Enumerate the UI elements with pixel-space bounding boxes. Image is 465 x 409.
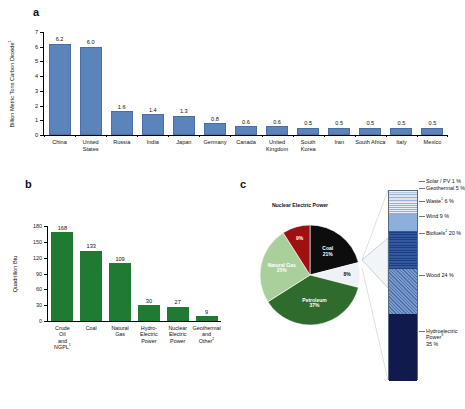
pie-slice-label: Petroleum37% (302, 298, 326, 310)
panel-b-bar-column: 109 (106, 226, 135, 321)
panel-a-y-tick-label: 4 (28, 73, 38, 79)
panel-b-bar (51, 232, 73, 321)
panel-a-bar-column: 0.5 (417, 32, 448, 135)
panel-a-y-tick-label: 7 (28, 29, 38, 35)
panel-a-x-label: United States (75, 139, 106, 152)
panel-a-x-tick (293, 135, 294, 137)
panel-b-bar-value: 133 (87, 243, 96, 249)
panel-a-x-axis (44, 135, 448, 136)
panel-a-emissions-bar-chart: a Billion Metric Tons Carbon Dioxide1 01… (0, 0, 462, 176)
renewable-stack-leader-tick (419, 275, 425, 276)
renewable-stack-leader-tick (419, 181, 425, 182)
renewable-stack-leader-tick (419, 201, 425, 202)
renewable-stack-segment (389, 269, 417, 315)
renewable-stack-segment (389, 214, 417, 231)
renewable-stack-segment (389, 314, 417, 381)
panel-a-y-axis-title: Billion Metric Tons Carbon Dioxide1 (7, 32, 17, 135)
panel-a-bar-column: 0.8 (199, 32, 230, 135)
panel-a-x-label: Italy (386, 139, 417, 152)
panel-a-x-tick (44, 135, 45, 137)
panel-a-x-tick (199, 135, 200, 137)
panel-a-bar-value: 1.6 (118, 104, 126, 110)
panel-a-x-label: Mexico (417, 139, 448, 152)
panel-a-bar-value: 1.4 (149, 107, 157, 113)
renewable-stack-segment (389, 193, 417, 203)
panel-a-bar (266, 126, 288, 135)
panel-b-bar-column: 27 (163, 226, 192, 321)
panel-a-bar-value: 1.3 (180, 108, 188, 114)
panel-b-bar-value: 9 (205, 309, 208, 315)
panel-a-bar (49, 44, 71, 135)
panel-b-bar-value: 27 (175, 299, 181, 305)
panel-a-x-label: South Korea (293, 139, 324, 152)
renewable-stack-label: Waste1 6 % (426, 198, 454, 204)
pie-slice-label: Natural Gas25% (268, 263, 296, 275)
panel-a-x-tick (386, 135, 387, 137)
renewable-stack-label: Wood 24 % (426, 272, 454, 278)
panel-a-bar-column: 0.5 (324, 32, 355, 135)
panel-b-bar-column: 133 (77, 226, 106, 321)
panel-a-bar-column: 6.0 (75, 32, 106, 135)
renewable-stack-leader-tick (419, 188, 425, 189)
panel-a-bar-column: 0.5 (293, 32, 324, 135)
panel-a-y-tick-label: 6 (28, 44, 38, 50)
panel-a-bar-value: 0.5 (398, 120, 406, 126)
panel-a-bar-column: 0.5 (386, 32, 417, 135)
panel-a-bar-value: 0.8 (211, 116, 219, 122)
panel-b-bar (167, 307, 189, 321)
panel-b-bar-column: 168 (48, 226, 77, 321)
panel-a-y-tick-label: 5 (28, 58, 38, 64)
panel-a-bar-column: 0.6 (262, 32, 293, 135)
panel-b-y-tick-label: 150 (22, 239, 42, 245)
panel-a-x-tick (417, 135, 418, 137)
panel-c-energy-sources-pie-chart: c Nuclear Electric Power Coal21%8%Petrol… (236, 176, 462, 409)
panel-a-bar-value: 0.5 (304, 120, 312, 126)
panel-a-x-tick (137, 135, 138, 137)
renewable-stack-segment (389, 202, 417, 213)
panel-b-bar (138, 305, 160, 321)
panel-a-x-label: Germany (199, 139, 230, 152)
panel-a-bar (390, 128, 412, 135)
panel-a-x-label: Iran (324, 139, 355, 152)
panel-a-bar-column: 0.5 (355, 32, 386, 135)
panel-a-x-tick (168, 135, 169, 137)
renewable-stack-label: HydroelectricPower335 % (426, 328, 457, 347)
panel-b-y-tick-label: 0 (22, 318, 42, 324)
panel-a-x-label: South Africa (355, 139, 386, 152)
panel-a-bar (297, 128, 319, 135)
panel-b-y-tick-label: 30 (22, 302, 42, 308)
panel-b-x-label: CrudeOilandNGPL1 (48, 325, 77, 351)
panel-a-bar-column: 6.2 (44, 32, 75, 135)
panel-a-bar (359, 128, 381, 135)
panel-b-y-tick-label: 60 (22, 286, 42, 292)
panel-a-x-tick (355, 135, 356, 137)
renewable-stack-label: Solar / PV 1 % (426, 178, 461, 184)
panel-a-x-axis-labels: ChinaUnited StatesRussiaIndiaJapanGerman… (44, 139, 448, 152)
panel-a-letter: a (33, 6, 39, 18)
panel-a-x-label: Russia (106, 139, 137, 152)
panel-b-bar-value: 109 (115, 256, 124, 262)
panel-a-y-tick-label: 1 (28, 117, 38, 123)
panel-b-x-label: Hydro-ElectricPower (134, 325, 163, 351)
panel-a-y-tick-label: 0 (28, 132, 38, 138)
panel-a-bar (111, 111, 133, 135)
panel-b-x-label: NuclearElectricPower (163, 325, 192, 351)
panel-b-letter: b (25, 178, 32, 190)
panel-b-bar-column: 9 (192, 226, 221, 321)
panel-a-x-tick (230, 135, 231, 137)
panel-a-bar-group: 6.26.01.61.41.30.80.60.60.50.50.50.50.5 (44, 32, 448, 135)
panel-a-bar-column: 0.6 (230, 32, 261, 135)
panel-a-bar-column: 1.4 (137, 32, 168, 135)
panel-a-bar-value: 0.5 (335, 120, 343, 126)
panel-b-x-label: Coal (77, 325, 106, 351)
panel-b-x-axis-labels: CrudeOilandNGPL1CoalNaturalGasHydro-Elec… (48, 325, 221, 351)
panel-b-x-axis (48, 321, 221, 322)
panel-a-bar (421, 128, 443, 135)
panel-a-bar-value: 0.5 (429, 120, 437, 126)
panel-c-letter: c (240, 178, 246, 190)
panel-a-bar (173, 116, 195, 135)
panel-a-bar-value: 0.5 (366, 120, 374, 126)
panel-a-bar (80, 47, 102, 135)
panel-b-bar-value: 168 (58, 225, 67, 231)
panel-a-bar (328, 128, 350, 135)
